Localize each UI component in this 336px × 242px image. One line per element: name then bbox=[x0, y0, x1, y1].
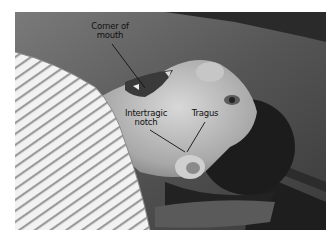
label-intertragic-notch: Intertragic notch bbox=[120, 109, 172, 127]
label-tragus: Tragus bbox=[187, 109, 223, 118]
label-corner-of-mouth: Corner of mouth bbox=[86, 22, 134, 40]
label-line: notch bbox=[120, 118, 172, 127]
label-line: mouth bbox=[86, 31, 134, 40]
